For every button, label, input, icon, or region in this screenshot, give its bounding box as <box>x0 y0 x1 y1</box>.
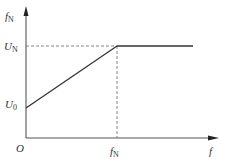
x-axis-label: f <box>209 145 214 157</box>
origin-label: O <box>16 142 24 154</box>
un-label: UN <box>4 40 18 54</box>
y-axis-arrow-icon <box>24 6 29 16</box>
ramp-line <box>26 46 117 108</box>
y-axis-label: fN <box>5 10 14 24</box>
u0-label: U0 <box>5 98 17 112</box>
fn-label: fN <box>110 145 119 159</box>
diagram-canvas: fN UN U0 O fN f <box>0 0 225 165</box>
x-axis-arrow-icon <box>208 136 219 141</box>
